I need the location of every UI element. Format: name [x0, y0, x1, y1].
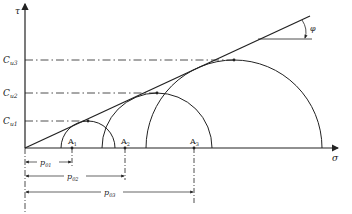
failure-envelope	[25, 16, 310, 148]
sigma-axis-label: σ	[332, 153, 339, 163]
a3-label: A3	[189, 137, 199, 147]
svg-text:A3: A3	[189, 137, 199, 147]
svg-text:Cu3: Cu3	[3, 55, 18, 66]
circle-2-apex	[156, 92, 159, 95]
mohr-circle-3	[146, 60, 322, 148]
circle-3-apex	[233, 59, 236, 62]
svg-text:A1: A1	[67, 137, 77, 147]
angle-arc	[302, 20, 306, 38]
svg-text:Cu2: Cu2	[3, 88, 18, 99]
svg-text:A2: A2	[120, 137, 130, 147]
phi-label: φ	[310, 24, 316, 33]
cu2-label: Cu2	[3, 88, 18, 99]
tau-axis-label: τ	[15, 6, 21, 16]
svg-text:Cu1: Cu1	[3, 116, 18, 127]
a2-label: A2	[120, 137, 130, 147]
a1-label: A1	[67, 137, 77, 147]
cu1-label: Cu1	[3, 116, 18, 127]
circle-1-apex	[87, 120, 90, 123]
cu3-label: Cu3	[3, 55, 18, 66]
mohr-diagram: τ σ Cu3 Cu2 Cu1 φ A1 A2 A3	[0, 0, 352, 214]
